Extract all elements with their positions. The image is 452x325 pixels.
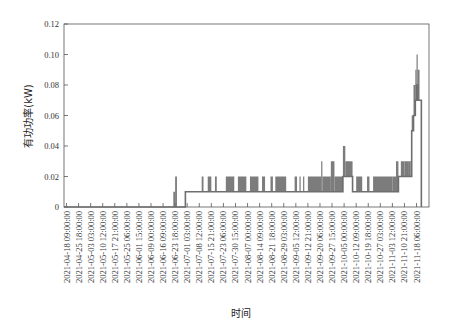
- oscillation-band: [392, 177, 396, 192]
- oscillation-band: [367, 177, 369, 192]
- oscillation-band: [334, 177, 342, 192]
- oscillation-band: [321, 161, 322, 192]
- x-tick-label: 2021-11-18 06:00:00: [412, 211, 422, 283]
- x-tick-label: 2021-10-27 03:00:00: [375, 211, 385, 283]
- oscillation-band: [408, 161, 410, 176]
- oscillation-band: [295, 177, 297, 192]
- oscillation-band: [303, 177, 304, 192]
- x-tick-label: 2021-06-23 18:00:00: [170, 211, 180, 283]
- oscillation-band: [250, 177, 258, 192]
- x-tick-label: 2021-06-01 15:00:00: [134, 211, 144, 283]
- y-axis: 00.020.040.060.080.100.12: [44, 19, 68, 212]
- x-tick-label: 2021-10-05 00:00:00: [339, 211, 349, 283]
- y-tick-label: 0.12: [44, 19, 59, 29]
- oscillation-band: [331, 161, 335, 192]
- x-tick-label: 2021-07-08 12:00:00: [194, 211, 204, 283]
- x-tick-label: 2021-05-10 12:00:00: [98, 211, 108, 283]
- power-series: [64, 55, 421, 208]
- x-tick-label: 2021-05-17 21:00:00: [110, 211, 120, 283]
- oscillation-band: [345, 161, 352, 176]
- x-tick-label: 2021-04-18 09:00:00: [62, 211, 72, 283]
- oscillation-band: [417, 55, 418, 86]
- oscillation-band: [202, 177, 204, 192]
- x-tick-label: 2021-07-30 15:00:00: [230, 211, 240, 283]
- x-tick-label: 2021-09-05 12:00:00: [291, 211, 301, 283]
- y-tick-label: 0.10: [44, 50, 59, 60]
- x-axis-title: 时间: [231, 307, 251, 319]
- y-tick-label: 0: [55, 202, 59, 212]
- x-tick-label: 2021-05-25 06:00:00: [122, 211, 132, 283]
- y-tick-label: 0.08: [44, 80, 59, 90]
- x-tick-label: 2021-07-15 21:00:00: [206, 211, 216, 283]
- x-tick-label: 2021-08-29 03:00:00: [279, 211, 289, 283]
- y-tick-label: 0.04: [44, 141, 60, 151]
- oscillation-band: [404, 161, 408, 176]
- oscillation-band: [343, 146, 345, 177]
- x-tick-label: 2021-05-03 03:00:00: [86, 211, 96, 283]
- x-tick-label: 2021-10-19 18:00:00: [363, 211, 373, 283]
- x-tick-label: 2021-09-20 06:00:00: [315, 211, 325, 283]
- oscillation-band: [173, 192, 175, 207]
- y-axis-title: 有功功率(kW): [22, 84, 34, 148]
- x-tick-label: 2021-08-14 09:00:00: [255, 211, 265, 283]
- x-tick-label: 2021-07-01 03:00:00: [182, 211, 192, 283]
- x-tick-label: 2021-11-10 21:00:00: [399, 211, 409, 283]
- x-tick-label: 2021-08-07 00:00:00: [243, 211, 253, 283]
- x-tick-label: 2021-11-03 12:00:00: [387, 211, 397, 283]
- x-tick-label: 2021-10-12 09:00:00: [351, 211, 361, 283]
- oscillation-band: [175, 177, 177, 208]
- oscillation-band: [275, 177, 286, 192]
- oscillation-band: [208, 177, 212, 192]
- oscillation-band: [299, 177, 300, 192]
- x-tick-label: 2021-08-21 18:00:00: [267, 211, 277, 283]
- x-tick-label: 2021-07-23 06:00:00: [218, 211, 228, 283]
- x-tick-label: 2021-06-09 00:00:00: [146, 211, 156, 283]
- x-tick-label: 2021-04-25 18:00:00: [74, 211, 84, 283]
- oscillation-band: [401, 161, 405, 176]
- x-tick-label: 2021-09-12 21:00:00: [303, 211, 313, 283]
- oscillation-band: [373, 177, 392, 192]
- oscillation-band: [308, 177, 321, 192]
- oscillation-band: [238, 177, 246, 192]
- y-tick-label: 0.06: [44, 111, 59, 121]
- oscillation-band: [215, 177, 217, 192]
- x-tick-label: 2021-06-16 09:00:00: [158, 211, 168, 283]
- x-axis: 2021-04-18 09:00:002021-04-25 18:00:0020…: [62, 203, 422, 283]
- x-tick-label: 2021-09-27 15:00:00: [327, 211, 337, 283]
- oscillation-band: [226, 177, 234, 192]
- y-tick-label: 0.02: [44, 172, 59, 182]
- oscillation-band: [262, 177, 265, 192]
- oscillation-band: [356, 177, 362, 192]
- oscillation-band: [270, 177, 272, 192]
- power-time-chart: 00.020.040.060.080.100.12 2021-04-18 09:…: [0, 0, 452, 325]
- oscillation-band: [322, 177, 330, 192]
